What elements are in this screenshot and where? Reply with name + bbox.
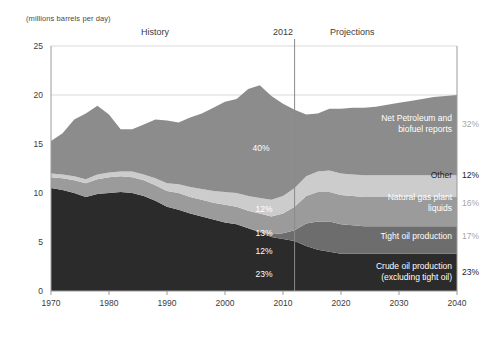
series-label: Crude oil production (excluding tight oi… bbox=[376, 261, 452, 283]
plot-area bbox=[0, 0, 496, 338]
series-label: Tight oil production bbox=[380, 231, 452, 242]
series-percent-label: 32% bbox=[462, 119, 479, 129]
x-tick-label: 2010 bbox=[274, 298, 293, 308]
y-tick-label: 0 bbox=[2, 286, 43, 296]
series-percent-label: 23% bbox=[462, 267, 479, 277]
inner-percent-label: 13% bbox=[255, 228, 272, 238]
inner-percent-label: 12% bbox=[255, 204, 272, 214]
series-percent-label: 16% bbox=[462, 198, 479, 208]
y-tick-label: 5 bbox=[2, 237, 43, 247]
x-tick-label: 2030 bbox=[390, 298, 409, 308]
chart-container: (millions barrels per day) History 2012 … bbox=[0, 0, 496, 338]
series-percent-label: 17% bbox=[462, 231, 479, 241]
history-annotation: History bbox=[141, 27, 169, 37]
y-tick-label: 20 bbox=[2, 90, 43, 100]
x-tick-label: 2020 bbox=[332, 298, 351, 308]
y-tick-label: 10 bbox=[2, 188, 43, 198]
y-tick-label: 15 bbox=[2, 139, 43, 149]
x-tick-label: 1970 bbox=[42, 298, 61, 308]
y-tick-label: 25 bbox=[2, 41, 43, 51]
series-label: Net Petroleum and biofuel reports bbox=[381, 113, 452, 135]
inner-percent-label: 12% bbox=[255, 246, 272, 256]
series-percent-label: 12% bbox=[462, 170, 479, 180]
inner-percent-label: 40% bbox=[252, 143, 269, 153]
units-label: (millions barrels per day) bbox=[26, 14, 111, 23]
x-tick-label: 2000 bbox=[216, 298, 235, 308]
divider-year-label: 2012 bbox=[273, 27, 293, 37]
x-tick-label: 1990 bbox=[158, 298, 177, 308]
series-label: Other bbox=[431, 170, 452, 181]
inner-percent-label: 23% bbox=[255, 269, 272, 279]
projections-annotation: Projections bbox=[330, 27, 375, 37]
x-tick-label: 2040 bbox=[448, 298, 467, 308]
x-tick-label: 1980 bbox=[100, 298, 119, 308]
series-label: Natural gas plant liquids bbox=[388, 192, 452, 214]
